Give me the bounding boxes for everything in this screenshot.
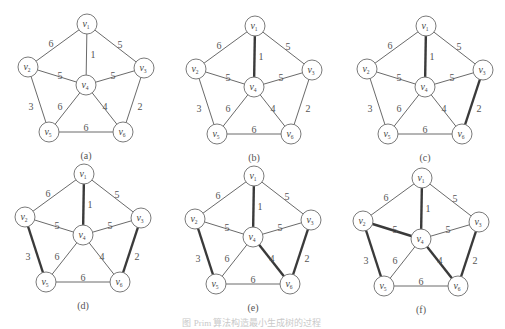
edge-weight-v2-v4: 5	[225, 222, 230, 233]
edge-weight-v1-v2: 6	[388, 40, 393, 51]
edge-v1-v3	[255, 26, 312, 70]
edge-weight-v1-v4: 1	[426, 203, 431, 214]
edge-weight-v3-v6: 2	[138, 101, 143, 112]
edge-weight-v3-v4: 5	[450, 72, 455, 83]
edge-weight-v4-v6: 4	[270, 253, 275, 264]
graph-panel-a: 6515536426v1v2v3v4v5v6(a)	[18, 14, 154, 162]
edge-v1-v2	[196, 26, 255, 69]
edge-weight-v2-v5: 3	[196, 253, 201, 264]
edge-weight-v3-v6: 2	[135, 251, 140, 262]
edge-v1-v2	[367, 26, 426, 69]
edge-weight-v4-v6: 4	[100, 251, 105, 262]
edge-weight-v3-v6: 2	[473, 255, 478, 266]
edge-weight-v1-v2: 6	[216, 190, 221, 201]
panel-label: (f)	[416, 304, 426, 316]
edge-v1-v2	[25, 174, 84, 217]
edge-weight-v4-v5: 6	[55, 251, 60, 262]
edge-weight-v2-v4: 5	[393, 224, 398, 235]
edge-weight-v2-v4: 5	[226, 72, 231, 83]
edge-weight-v1-v4: 1	[259, 51, 264, 62]
edge-v1-v2	[363, 178, 422, 221]
graph-panel-f: 6515536426v1v2v3v4v5v6(f)	[353, 168, 489, 316]
edge-weight-v1-v4: 1	[258, 201, 263, 212]
edge-weight-v2-v4: 5	[55, 220, 60, 231]
panel-label: (a)	[80, 150, 91, 162]
graph-panel-b: 6515536426v1v2v3v4v5v6(b)	[186, 16, 322, 164]
edge-weight-v1-v3: 5	[115, 189, 120, 200]
edge-weight-v4-v6: 4	[271, 103, 276, 114]
panel-label: (d)	[77, 300, 89, 312]
panel-label: (c)	[419, 152, 430, 164]
panel-label: (b)	[248, 152, 260, 164]
edge-weight-v3-v6: 2	[306, 103, 311, 114]
graph-panel-c: 6515536426v1v2v3v4v5v6(c)	[357, 16, 493, 164]
edge-weight-v1-v2: 6	[49, 38, 54, 49]
graph-panels: 6515536426v1v2v3v4v5v6(a)6515536426v1v2v…	[15, 14, 493, 316]
edge-weight-v3-v4: 5	[108, 220, 113, 231]
edge-weight-v3-v4: 5	[278, 222, 283, 233]
edge-weight-v3-v4: 5	[446, 224, 451, 235]
edge-weight-v2-v5: 3	[197, 103, 202, 114]
edge-v1-v3	[422, 178, 479, 222]
edge-weight-v1-v3: 5	[285, 191, 290, 202]
figure-caption: 图 Prim 算法构造最小生成树的过程	[182, 317, 321, 328]
edge-weight-v4-v5: 6	[58, 101, 63, 112]
edge-weight-v3-v4: 5	[111, 70, 116, 81]
edge-weight-v3-v6: 2	[477, 103, 482, 114]
edge-weight-v4-v5: 6	[226, 103, 231, 114]
edge-weight-v4-v5: 6	[393, 255, 398, 266]
edge-weight-v5-v6: 6	[419, 276, 424, 287]
edge-weight-v2-v5: 3	[368, 103, 373, 114]
edge-weight-v4-v5: 6	[225, 253, 230, 264]
edge-weight-v3-v6: 2	[305, 253, 310, 264]
panel-label: (e)	[247, 302, 258, 314]
edge-v1-v3	[254, 176, 311, 220]
edge-weight-v1-v4: 1	[91, 49, 96, 60]
edge-v1-v3	[84, 174, 141, 218]
graph-panel-e: 6515536426v1v2v3v4v5v6(e)	[185, 166, 321, 314]
edge-weight-v4-v5: 6	[397, 103, 402, 114]
edge-weight-v3-v4: 5	[279, 72, 284, 83]
prim-mst-figure: 6515536426v1v2v3v4v5v6(a)6515536426v1v2v…	[0, 0, 505, 329]
edge-v1-v3	[426, 26, 483, 70]
edge-weight-v2-v4: 5	[397, 72, 402, 83]
edge-weight-v1-v2: 6	[384, 192, 389, 203]
edge-weight-v1-v4: 1	[430, 51, 435, 62]
edge-weight-v1-v4: 1	[88, 199, 93, 210]
edge-weight-v4-v6: 4	[438, 255, 443, 266]
edge-weight-v2-v5: 3	[364, 255, 369, 266]
edge-weight-v2-v5: 3	[26, 251, 31, 262]
edge-weight-v5-v6: 6	[252, 124, 257, 135]
edge-weight-v5-v6: 6	[423, 124, 428, 135]
edge-v1-v2	[195, 176, 254, 219]
edge-weight-v5-v6: 6	[251, 274, 256, 285]
edge-weight-v2-v5: 3	[29, 101, 34, 112]
edge-weight-v4-v6: 4	[442, 103, 447, 114]
edge-weight-v1-v3: 5	[286, 41, 291, 52]
graph-panel-d: 6515536426v1v2v3v4v5v6(d)	[15, 164, 151, 312]
edge-weight-v1-v3: 5	[457, 41, 462, 52]
edge-weight-v2-v4: 5	[58, 70, 63, 81]
edge-weight-v5-v6: 6	[81, 272, 86, 283]
edge-v1-v2	[28, 24, 87, 67]
edge-weight-v1-v2: 6	[46, 188, 51, 199]
edge-weight-v1-v3: 5	[118, 39, 123, 50]
edge-weight-v1-v2: 6	[217, 40, 222, 51]
edge-weight-v5-v6: 6	[84, 122, 89, 133]
edge-weight-v1-v3: 5	[453, 193, 458, 204]
edge-v1-v3	[87, 24, 144, 68]
edge-weight-v4-v6: 4	[103, 101, 108, 112]
